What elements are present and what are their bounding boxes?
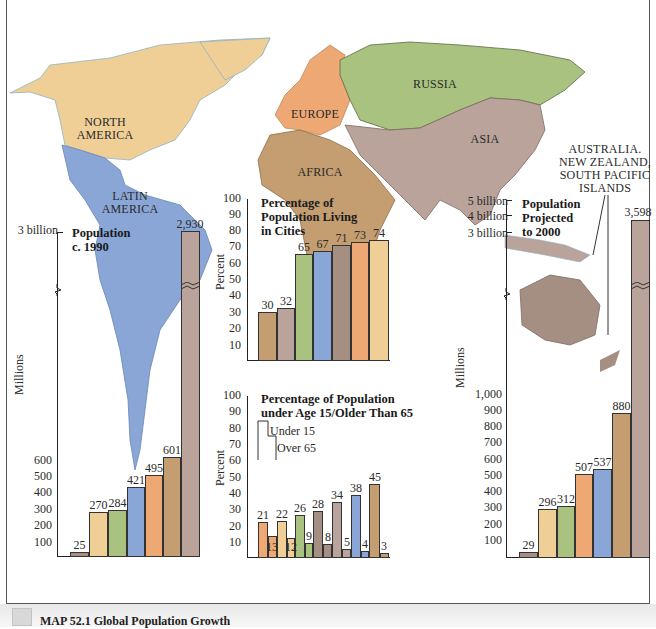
label-asia: ASIA xyxy=(460,133,510,146)
chart1-value: 284 xyxy=(105,496,130,511)
chart4-bar xyxy=(575,474,593,558)
chart4-tick: 500 xyxy=(458,468,502,483)
chart3-value: 8 xyxy=(322,530,334,545)
chart3-tick: 30 xyxy=(197,502,241,517)
chart2-tick: 100 xyxy=(197,191,241,206)
chart4-tick: 100 xyxy=(458,533,502,548)
chart1-tick: 400 xyxy=(8,485,52,500)
chart3-tick: 90 xyxy=(197,404,241,419)
chart1-ylabel: Millions xyxy=(12,354,27,395)
chart2-tick: 90 xyxy=(197,207,241,222)
chart4-bar-break-icon xyxy=(631,282,650,292)
chart1-tick: 300 xyxy=(8,502,52,517)
chart4-bar xyxy=(557,506,575,558)
chart1-bar xyxy=(108,510,127,557)
chart2-tick: 80 xyxy=(197,223,241,238)
chart1-title: Populationc. 1990 xyxy=(72,226,130,254)
chart3-tick: 80 xyxy=(197,421,241,436)
chart3-tick: 20 xyxy=(197,519,241,534)
chart4-tick-mark xyxy=(506,200,512,201)
chart4-tick: 800 xyxy=(458,419,502,434)
chart3-value: 21 xyxy=(255,508,271,523)
chart4-tick: 200 xyxy=(458,517,502,532)
chart3-title: Percentage of Populationunder Age 15/Old… xyxy=(261,392,413,420)
chart4-value: 880 xyxy=(609,399,634,414)
region-oceania xyxy=(520,275,600,345)
region-new-zealand xyxy=(600,350,620,372)
chart2-bar xyxy=(351,242,369,361)
chart2-value: 71 xyxy=(332,231,351,246)
chart4-tick-mark xyxy=(506,215,512,216)
label-russia: RUSSIA xyxy=(405,78,465,91)
chart2-tick: 60 xyxy=(197,256,241,271)
chart4-y-axis xyxy=(506,200,507,557)
chart2-tick: 10 xyxy=(197,338,241,353)
oceania-pointer-line xyxy=(590,195,610,335)
chart3-value: 34 xyxy=(329,488,345,503)
chart4-bar xyxy=(538,509,557,558)
chart2-bar xyxy=(369,240,389,361)
chart3-tick: 70 xyxy=(197,437,241,452)
chart1-value: 601 xyxy=(160,443,184,458)
chart4-tick: 300 xyxy=(458,500,502,515)
chart3-legend-under15: Under 15 xyxy=(270,424,315,439)
chart4-tick: 700 xyxy=(458,435,502,450)
chart3-bar-over65 xyxy=(361,551,369,558)
chart1-y-axis xyxy=(57,232,58,557)
chart2-value: 74 xyxy=(369,226,389,241)
chart3-tick: 40 xyxy=(197,486,241,501)
chart1-value: 495 xyxy=(142,461,166,476)
chart4-tick-mark xyxy=(506,232,512,233)
chart3-tick: 60 xyxy=(197,453,241,468)
chart3-tick: 100 xyxy=(197,388,241,403)
chart3-y-axis xyxy=(247,396,248,557)
chart2-tick: 40 xyxy=(197,288,241,303)
chart1-axis-break-icon xyxy=(52,284,64,296)
chart3-tick: 50 xyxy=(197,470,241,485)
chart3-value: 4 xyxy=(359,537,371,552)
chart4-bar xyxy=(612,413,631,558)
chart1-value: 25 xyxy=(70,538,89,553)
chart2-y-axis xyxy=(247,199,248,360)
chart1-tick: 500 xyxy=(8,469,52,484)
chart4-ylabel: Millions xyxy=(453,347,468,388)
chart2-tick: 20 xyxy=(197,321,241,336)
chart2-bar xyxy=(313,251,332,361)
chart2-value: 65 xyxy=(295,240,313,255)
chart4-bar xyxy=(593,469,612,558)
chart4-break-label: 3 billion xyxy=(452,226,508,241)
chart4-tick: 1,000 xyxy=(458,387,502,402)
chart3-value: 12 xyxy=(283,540,299,555)
chart3-tick: 10 xyxy=(197,535,241,550)
chart1-break-label: 3 billion xyxy=(8,223,58,238)
chart3-value: 13 xyxy=(264,540,280,555)
label-europe: EUROPE xyxy=(285,108,345,121)
region-indonesia xyxy=(505,235,590,262)
chart2-value: 30 xyxy=(258,298,277,313)
chart2-bar xyxy=(258,312,277,361)
chart4-value: 312 xyxy=(554,492,578,507)
chart3-value: 9 xyxy=(303,529,315,544)
label-north-america: NORTHAMERICA xyxy=(70,116,140,142)
region-europe xyxy=(275,45,350,135)
chart3-legend-over65: Over 65 xyxy=(277,441,316,456)
figure-caption: MAP 52.1 Global Population Growth xyxy=(40,614,230,629)
chart1-bar xyxy=(89,512,108,557)
chart2-tick: 30 xyxy=(197,305,241,320)
chart1-tick: 100 xyxy=(8,535,52,550)
chart1-top-tick xyxy=(57,232,63,233)
chart1-tick: 200 xyxy=(8,518,52,533)
chart4-break-label: 5 billion xyxy=(452,194,508,209)
chart4-title: PopulationProjectedto 2000 xyxy=(522,197,580,239)
chart1-tick: 600 xyxy=(8,453,52,468)
label-latin-america: LATINAMERICA xyxy=(100,190,160,216)
chart4-axis-break-icon xyxy=(501,288,513,300)
chart3-value: 38 xyxy=(348,481,364,496)
chart4-value: 537 xyxy=(590,455,615,470)
chart2-bar xyxy=(295,254,313,361)
chart4-tick: 900 xyxy=(458,403,502,418)
label-africa: AFRICA xyxy=(290,166,350,179)
chart2-value: 32 xyxy=(277,294,295,309)
chart4-tick: 400 xyxy=(458,484,502,499)
chart3-value: 5 xyxy=(341,535,353,550)
